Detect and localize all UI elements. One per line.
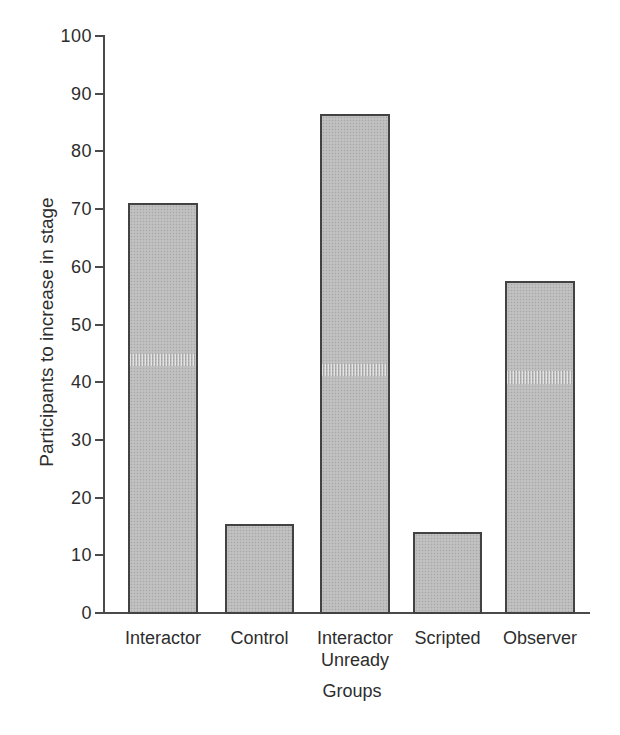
y-tick-label: 80 <box>34 142 92 160</box>
y-tick-mark <box>95 150 104 152</box>
bar-scripted <box>413 532 482 614</box>
y-tick-label: 40 <box>34 373 92 391</box>
plot-area: Participants to increase in stage 010203… <box>0 0 620 735</box>
scan-artifact-band <box>322 364 388 376</box>
y-tick-label: 20 <box>34 489 92 507</box>
scan-artifact-band <box>130 354 196 366</box>
bar-interactor <box>128 203 198 614</box>
x-axis-title: Groups <box>322 681 381 701</box>
category-label-line: Unready <box>290 649 420 671</box>
y-tick-mark <box>95 554 104 556</box>
y-tick-mark <box>95 266 104 268</box>
category-label-observer: Observer <box>475 627 605 649</box>
y-tick-mark <box>95 497 104 499</box>
scan-artifact-band <box>507 371 573 384</box>
y-tick-label: 90 <box>34 85 92 103</box>
y-tick-label: 0 <box>34 604 92 622</box>
y-tick-label: 70 <box>34 200 92 218</box>
y-tick-label: 30 <box>34 431 92 449</box>
bar-observer <box>505 281 575 614</box>
y-tick-label: 10 <box>34 546 92 564</box>
y-tick-mark <box>95 208 104 210</box>
y-tick-mark <box>95 35 104 37</box>
y-tick-mark <box>95 439 104 441</box>
y-tick-label: 100 <box>34 27 92 45</box>
category-label-line: Observer <box>475 627 605 649</box>
y-tick-mark <box>95 93 104 95</box>
y-tick-label: 60 <box>34 258 92 276</box>
y-tick-mark <box>95 324 104 326</box>
y-tick-mark <box>95 612 104 614</box>
y-tick-label: 50 <box>34 316 92 334</box>
bar-control <box>225 524 294 614</box>
scanned-bar-chart-figure: Participants to increase in stage 010203… <box>0 0 620 735</box>
y-tick-mark <box>95 381 104 383</box>
bar-interactor-unready <box>320 114 390 614</box>
